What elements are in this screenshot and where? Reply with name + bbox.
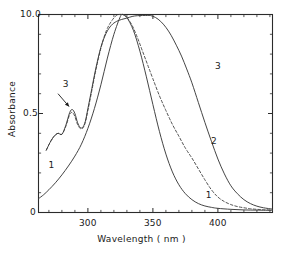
absorbance-spectrum-figure: 10.0 0.5 0 300 350 400 Wavelength ( nm )… <box>0 0 283 254</box>
curve-3 <box>46 15 272 209</box>
curve-2 <box>46 14 272 210</box>
y-tick-label-top: 10.0 <box>20 9 41 19</box>
y-tick-label-zero: 0 <box>30 207 36 217</box>
curve-label-1-right: 1 <box>206 190 212 200</box>
curve-1 <box>39 14 273 210</box>
curve-label-3-right: 3 <box>215 61 221 71</box>
y-axis-title: Absorbance <box>7 64 17 154</box>
y-tick-label-mid: 0.5 <box>23 108 38 118</box>
curve-label-2-right: 2 <box>211 136 217 146</box>
curve-label-3-shoulder: 3 <box>63 79 69 89</box>
plot-area <box>0 0 283 254</box>
x-tick-label-400: 400 <box>209 218 227 228</box>
x-tick-label-350: 350 <box>144 218 162 228</box>
annotation-arrow <box>58 94 69 107</box>
x-axis-title: Wavelength ( nm ) <box>0 234 283 244</box>
curve-label-1-left: 1 <box>49 160 55 170</box>
data-curves <box>39 14 273 210</box>
x-tick-label-300: 300 <box>79 218 97 228</box>
